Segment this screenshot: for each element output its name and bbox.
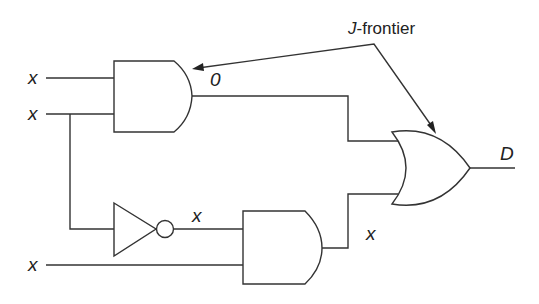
- or-gate: [392, 131, 470, 205]
- arrowhead-to-or: [427, 121, 436, 134]
- branch-wire-to-not: [70, 114, 114, 229]
- j-frontier-arrow-lines: [198, 44, 433, 128]
- logic-circuit-diagram: x x x 0 x x D J-frontier: [0, 0, 539, 304]
- arrowhead-to-and1: [192, 63, 204, 71]
- and1-output-wire: [192, 96, 398, 141]
- and-gate-1: [114, 61, 192, 132]
- input-label-1: x: [27, 67, 39, 88]
- and1-output-label: 0: [210, 69, 221, 90]
- or-output-label: D: [500, 143, 514, 164]
- j-frontier-label: J-frontier: [347, 19, 415, 38]
- not-gate-bubble: [157, 221, 174, 238]
- input-label-3: x: [27, 254, 39, 275]
- not-output-label: x: [191, 205, 203, 226]
- and-gate-2: [243, 211, 322, 284]
- input-label-2: x: [27, 103, 39, 124]
- not-gate-triangle: [114, 203, 156, 256]
- and2-output-label: x: [365, 223, 377, 244]
- and2-output-wire: [322, 194, 398, 248]
